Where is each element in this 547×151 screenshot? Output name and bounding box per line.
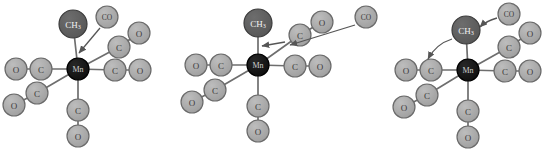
metal-center[interactable]: Mn [457, 59, 479, 81]
metal-center-sphere [457, 59, 479, 81]
carbonyl-upper-right-carbon-sphere [108, 36, 130, 58]
carbonyl-bottom-carbon[interactable]: C [457, 100, 479, 122]
incoming-carbonyl[interactable]: CO [498, 3, 520, 25]
carbonyl-upper-right-oxygen-sphere [519, 22, 541, 44]
carbonyl-bottom-carbon-sphere [247, 95, 269, 117]
incoming-carbonyl-sphere [96, 6, 118, 28]
carbonyl-left-carbon-sphere [30, 58, 52, 80]
carbonyl-upper-right-carbon-sphere [498, 36, 520, 58]
carbonyl-upper-right-oxygen[interactable]: O [519, 22, 541, 44]
carbonyl-left-oxygen-sphere [5, 58, 27, 80]
carbonyl-bottom-oxygen[interactable]: O [67, 125, 89, 147]
carbonyl-right-carbon[interactable]: C [104, 59, 126, 81]
carbonyl-right-carbon-sphere [494, 60, 516, 82]
carbonyl-upper-right-oxygen-sphere [311, 11, 333, 33]
carbonyl-upper-right-carbon[interactable]: C [498, 36, 520, 58]
carbonyl-left-oxygen[interactable]: O [185, 54, 207, 76]
methyl-group-sphere [59, 10, 87, 38]
carbonyl-left-oxygen-sphere [185, 54, 207, 76]
carbonyl-bottom-oxygen-sphere [457, 126, 479, 148]
carbonyl-bottom-oxygen-sphere [247, 120, 269, 142]
carbonyl-bottom-carbon-sphere [67, 99, 89, 121]
carbonyl-right-carbon-sphere [104, 59, 126, 81]
carbonyl-left-carbon-sphere [210, 54, 232, 76]
carbonyl-right-carbon-sphere [284, 55, 306, 77]
carbonyl-lower-left-oxygen[interactable]: O [181, 91, 203, 113]
carbonyl-bottom-oxygen[interactable]: O [247, 120, 269, 142]
incoming-carbonyl-sphere [498, 3, 520, 25]
carbonyl-left-oxygen-sphere [395, 59, 417, 81]
carbonyl-lower-left-carbon[interactable]: C [416, 84, 438, 106]
methyl-group-sphere [244, 9, 272, 37]
carbonyl-lower-left-carbon[interactable]: C [26, 82, 48, 104]
carbonyl-left-carbon[interactable]: C [210, 54, 232, 76]
carbonyl-lower-left-oxygen-sphere [393, 96, 415, 118]
incoming-carbonyl-sphere [355, 6, 377, 28]
carbonyl-bottom-carbon[interactable]: C [67, 99, 89, 121]
carbonyl-right-oxygen[interactable]: O [309, 55, 331, 77]
carbonyl-right-carbon[interactable]: C [284, 55, 306, 77]
carbonyl-lower-left-oxygen[interactable]: O [3, 94, 25, 116]
methyl-group[interactable]: CH3 [244, 9, 272, 37]
carbonyl-left-carbon[interactable]: C [420, 59, 442, 81]
carbonyl-bottom-oxygen[interactable]: O [457, 126, 479, 148]
carbonyl-upper-right-carbon-sphere [289, 24, 311, 46]
methyl-group[interactable]: CH3 [452, 16, 480, 44]
metal-center-sphere [67, 58, 89, 80]
carbonyl-right-oxygen[interactable]: O [519, 60, 541, 82]
carbonyl-left-carbon[interactable]: C [30, 58, 52, 80]
incoming-carbonyl[interactable]: CO [96, 6, 118, 28]
carbonyl-lower-left-carbon-sphere [204, 79, 226, 101]
carbonyl-bottom-carbon-sphere [457, 100, 479, 122]
carbonyl-lower-left-oxygen-sphere [181, 91, 203, 113]
carbonyl-right-oxygen-sphere [519, 60, 541, 82]
carbonyl-upper-right-oxygen-sphere [128, 22, 150, 44]
carbonyl-lower-left-oxygen[interactable]: O [393, 96, 415, 118]
carbonyl-bottom-carbon[interactable]: C [247, 95, 269, 117]
metal-center-sphere [247, 54, 269, 76]
carbonyl-lower-left-carbon-sphere [26, 82, 48, 104]
carbonyl-right-oxygen-sphere [129, 59, 151, 81]
carbonyl-right-oxygen[interactable]: O [129, 59, 151, 81]
carbonyl-upper-right-carbon[interactable]: C [289, 24, 311, 46]
carbonyl-left-carbon-sphere [420, 59, 442, 81]
carbonyl-bottom-oxygen-sphere [67, 125, 89, 147]
carbonyl-left-oxygen[interactable]: O [395, 59, 417, 81]
reaction-mechanism-diagram: MnCH3COCOCOCOCOCOMnCH3COCOCOCOCOCOMnCH3C… [0, 0, 547, 151]
carbonyl-upper-right-oxygen[interactable]: O [128, 22, 150, 44]
carbonyl-right-carbon[interactable]: C [494, 60, 516, 82]
carbonyl-lower-left-oxygen-sphere [3, 94, 25, 116]
carbonyl-right-oxygen-sphere [309, 55, 331, 77]
carbonyl-lower-left-carbon[interactable]: C [204, 79, 226, 101]
carbonyl-left-oxygen[interactable]: O [5, 58, 27, 80]
carbonyl-upper-right-oxygen[interactable]: O [311, 11, 333, 33]
metal-center[interactable]: Mn [247, 54, 269, 76]
metal-center[interactable]: Mn [67, 58, 89, 80]
carbonyl-upper-right-carbon[interactable]: C [108, 36, 130, 58]
carbonyl-lower-left-carbon-sphere [416, 84, 438, 106]
methyl-group[interactable]: CH3 [59, 10, 87, 38]
methyl-group-sphere [452, 16, 480, 44]
incoming-carbonyl[interactable]: CO [355, 6, 377, 28]
